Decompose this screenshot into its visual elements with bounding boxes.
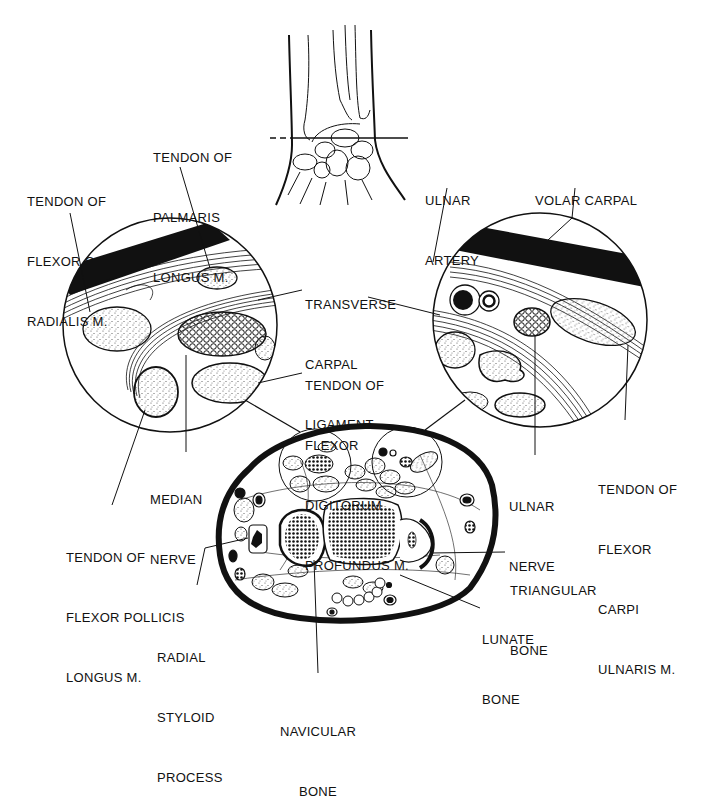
label-lunate-bone: LUNATE BONE [482,590,534,730]
label-ulnar-artery: ULNAR ARTERY [425,151,479,291]
label-tendon-of-flexor-digitorum-profundus: TENDON OF FLEXOR DIGITORUM PROFUNDUS M. [305,336,409,596]
label-radial-styloid-process: RADIAL STYLOID PROCESS [157,608,223,800]
label-navicular-bone: NAVICULAR BONE [280,682,356,800]
label-tendon-of-palmaris-longus: TENDON OF PALMARIS LONGUS M. [153,108,232,308]
wrist-hand-outline [276,25,405,205]
label-tendon-of-flexor-carpi-ulnaris: TENDON OF FLEXOR CARPI ULNARIS M. [598,440,677,700]
label-volar-carpal-ligament: VOLAR CARPAL LIGAMENT [535,151,637,291]
label-tendon-of-flexor-carpi-radialis: TENDON OF FLEXOR CARPI RADIALIS M. [27,152,126,352]
